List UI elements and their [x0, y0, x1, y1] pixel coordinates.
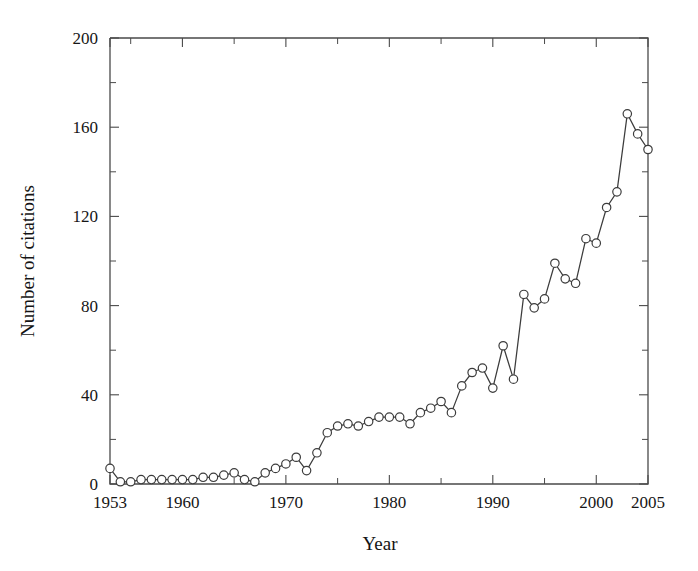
y-tick-label: 120 — [73, 207, 99, 226]
data-point-marker — [592, 239, 600, 247]
data-point-marker — [364, 417, 372, 425]
data-point-marker — [468, 368, 476, 376]
x-tick-label: 1980 — [372, 493, 406, 512]
data-point-marker — [240, 475, 248, 483]
x-tick-label: 1990 — [476, 493, 510, 512]
data-point-marker — [582, 235, 590, 243]
data-point-marker — [230, 469, 238, 477]
data-point-marker — [551, 259, 559, 267]
series-line — [110, 114, 648, 482]
y-tick-label: 80 — [81, 297, 98, 316]
data-point-marker — [323, 429, 331, 437]
data-point-marker — [416, 408, 424, 416]
data-point-marker — [189, 475, 197, 483]
citation-line-chart: 0408012016020019531960197019801990200020… — [0, 0, 698, 571]
data-point-marker — [251, 478, 259, 486]
data-point-marker — [395, 413, 403, 421]
data-point-marker — [147, 475, 155, 483]
data-point-marker — [427, 404, 435, 412]
data-point-marker — [271, 464, 279, 472]
data-point-marker — [354, 422, 362, 430]
y-tick-label: 160 — [73, 118, 99, 137]
data-point-marker — [478, 364, 486, 372]
data-point-marker — [282, 460, 290, 468]
data-point-marker — [644, 145, 652, 153]
data-point-marker — [220, 471, 228, 479]
data-point-marker — [137, 475, 145, 483]
data-series-group — [106, 110, 652, 486]
y-axis-title: Number of citations — [17, 185, 38, 337]
data-point-marker — [375, 413, 383, 421]
data-point-marker — [126, 478, 134, 486]
citation-chart-container: 0408012016020019531960197019801990200020… — [0, 0, 698, 571]
y-tick-label: 40 — [81, 386, 98, 405]
data-point-marker — [633, 130, 641, 138]
data-point-marker — [602, 203, 610, 211]
data-point-marker — [385, 413, 393, 421]
data-point-marker — [499, 342, 507, 350]
y-tick-label: 200 — [73, 29, 99, 48]
data-point-marker — [209, 473, 217, 481]
data-point-marker — [623, 110, 631, 118]
data-point-marker — [106, 464, 114, 472]
x-tick-label: 1970 — [269, 493, 303, 512]
data-point-marker — [530, 304, 538, 312]
data-point-marker — [178, 475, 186, 483]
data-point-marker — [613, 188, 621, 196]
tick-labels-group: 0408012016020019531960197019801990200020… — [73, 29, 666, 512]
data-point-marker — [489, 384, 497, 392]
x-tick-label: 2000 — [579, 493, 613, 512]
data-point-marker — [520, 290, 528, 298]
data-point-marker — [571, 279, 579, 287]
data-point-marker — [333, 422, 341, 430]
data-point-marker — [540, 295, 548, 303]
data-point-marker — [199, 473, 207, 481]
x-tick-label: 2005 — [631, 493, 665, 512]
data-point-marker — [168, 475, 176, 483]
data-point-marker — [509, 375, 517, 383]
data-point-marker — [313, 449, 321, 457]
data-point-marker — [292, 453, 300, 461]
data-point-marker — [158, 475, 166, 483]
data-point-marker — [447, 408, 455, 416]
y-tick-label: 0 — [90, 475, 99, 494]
data-point-marker — [437, 397, 445, 405]
x-tick-label: 1953 — [93, 493, 127, 512]
x-axis-title: Year — [362, 533, 398, 554]
data-point-marker — [302, 466, 310, 474]
data-point-marker — [344, 420, 352, 428]
data-point-marker — [261, 469, 269, 477]
data-point-marker — [458, 382, 466, 390]
x-tick-label: 1960 — [165, 493, 199, 512]
data-point-marker — [561, 275, 569, 283]
data-point-marker — [116, 478, 124, 486]
data-point-marker — [406, 420, 414, 428]
